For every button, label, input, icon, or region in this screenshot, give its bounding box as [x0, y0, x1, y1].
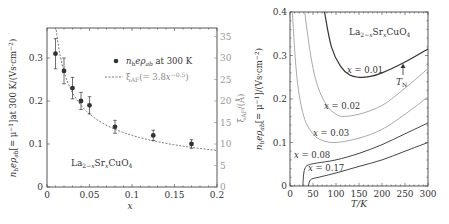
left-y-tick-label: 0.1: [29, 139, 43, 149]
left-y2-tick-label: 20: [220, 96, 232, 106]
data-point: [189, 142, 194, 147]
left-legend: nheρab at 300 K ξAF(= 3.8x−0.5): [105, 56, 193, 83]
data-point: [151, 133, 156, 138]
right-x-tick-label: 150: [350, 189, 367, 199]
left-y-tick-label: 0.3: [29, 53, 44, 63]
right-x-tick-label: 50: [307, 189, 319, 199]
left-x-tick-label: 0.05: [79, 190, 99, 200]
right-compound-annotation: La2−xSrxCuO4: [349, 27, 411, 38]
left-y2-axis-label: ξAF/(Å): [235, 94, 247, 123]
tn-label: TN: [396, 77, 407, 88]
right-y-tick-label: 0.1: [273, 138, 287, 148]
right-x-axis-label: T/K: [351, 199, 368, 209]
xi-af-fit-curve: [56, 30, 216, 150]
left-y-tick-label: 0: [37, 182, 43, 192]
left-chart: 00.050.10.150.200.10.20.3 05101520253035…: [7, 28, 247, 211]
curve-label-x003: x = 0.03: [313, 128, 349, 138]
left-y2-tick-labels: 05101520253035: [220, 32, 232, 192]
left-y2-tick-label: 15: [220, 118, 232, 128]
right-x-tick-label: 100: [327, 189, 344, 199]
legend-series2-label: ξAF(= 3.8x−0.5): [126, 71, 189, 83]
right-x-tick-label: 0: [287, 189, 293, 199]
legend-series1-label: nheρab at 300 K: [126, 56, 193, 67]
right-x-tick-label: 300: [419, 189, 436, 199]
left-y2-tick-label: 35: [220, 32, 232, 42]
data-point: [62, 69, 67, 74]
right-chart: 05010015020025030000.10.20.30.4 La2−xSrx…: [253, 7, 437, 209]
right-y-axis-label: nheρab[= μ−1]/(Vs·cm−2): [253, 48, 265, 150]
left-y2-tick-label: 10: [220, 139, 232, 149]
data-point: [70, 86, 75, 91]
curve-label-x001: x = 0.01: [347, 65, 383, 75]
right-y-tick-label: 0.4: [273, 7, 288, 17]
curve-label-x008: x = 0.08: [294, 150, 330, 160]
data-point: [53, 51, 58, 56]
left-y-axis-label: nheρab[= μ−1]at 300 K/(Vs·cm−2): [7, 39, 19, 178]
figure: 00.050.10.150.200.10.20.3 05101520253035…: [0, 0, 449, 224]
left-y2-tick-label: 0: [220, 182, 226, 192]
right-x-tick-label: 200: [373, 189, 390, 199]
right-y-tick-label: 0: [281, 181, 287, 191]
left-y-tick-label: 0.2: [29, 96, 43, 106]
left-y2-tick-label: 25: [220, 75, 232, 85]
left-x-tick-label: 0.1: [125, 190, 139, 200]
left-x-tick-label: 0: [44, 190, 50, 200]
curve-label-x002: x = 0.02: [324, 101, 360, 111]
right-x-tick-label: 250: [396, 189, 413, 199]
right-y-tick-label: 0.2: [273, 94, 287, 104]
data-point: [79, 99, 84, 104]
data-point: [113, 124, 118, 129]
curve-label-x017: x = 0.17: [308, 163, 344, 173]
left-x-tick-label: 0.15: [164, 190, 184, 200]
left-y2-tick-label: 30: [220, 53, 232, 63]
left-x-axis-label: x: [127, 201, 132, 211]
left-compound-annotation: La2−xSrxCuO4: [71, 158, 133, 169]
right-y-tick-label: 0.3: [273, 51, 288, 61]
left-y2-tick-label: 5: [220, 161, 226, 171]
legend-marker-circle-icon: [114, 59, 119, 64]
data-point: [87, 103, 92, 108]
